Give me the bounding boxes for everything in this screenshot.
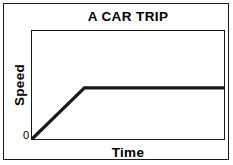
x-axis-label: Time: [31, 145, 225, 160]
chart-title: A CAR TRIP: [31, 9, 225, 24]
chart-figure: A CAR TRIP Speed 0 Time: [0, 0, 233, 165]
plot-area-frame: [31, 30, 225, 140]
y-axis-label: Speed: [13, 52, 27, 118]
origin-tick-label: 0: [17, 129, 29, 141]
